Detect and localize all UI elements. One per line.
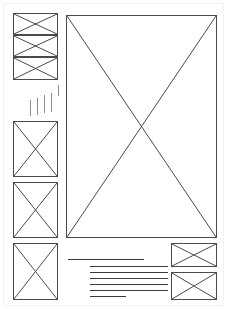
caption-tick-4 [51, 93, 52, 112]
image-placeholder-6[interactable] [13, 243, 58, 300]
cross-mark-icon [14, 244, 57, 299]
body-rule-1 [90, 266, 168, 267]
caption-tick-2 [37, 98, 38, 115]
cross-mark-icon [14, 36, 57, 56]
body-rule-4 [90, 284, 168, 285]
heading-rule [68, 259, 144, 260]
image-placeholder-3[interactable] [13, 57, 58, 80]
body-rule-2 [90, 272, 168, 273]
caption-tick-5 [58, 85, 59, 96]
image-placeholder-5[interactable] [13, 182, 58, 238]
image-placeholder-8[interactable] [171, 272, 217, 300]
hero-image-placeholder[interactable] [66, 15, 217, 238]
cross-mark-icon [14, 122, 57, 176]
caption-tick-1 [30, 100, 31, 116]
caption-tick-3 [44, 95, 45, 113]
image-placeholder-1[interactable] [13, 13, 58, 35]
wireframe-canvas [0, 0, 227, 309]
cross-mark-icon [14, 58, 57, 79]
body-rule-6 [90, 296, 126, 297]
body-rule-3 [90, 278, 168, 279]
cross-mark-icon [14, 183, 57, 237]
image-placeholder-4[interactable] [13, 121, 58, 177]
cross-mark-icon [172, 244, 216, 266]
cross-mark-icon [172, 273, 216, 299]
image-placeholder-2[interactable] [13, 35, 58, 57]
cross-mark-icon [14, 14, 57, 34]
body-rule-5 [90, 290, 168, 291]
image-placeholder-7[interactable] [171, 243, 217, 267]
cross-mark-icon [67, 16, 216, 237]
